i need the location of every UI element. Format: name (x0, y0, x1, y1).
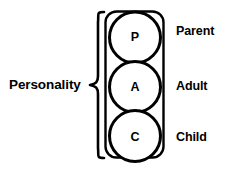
parent-state-label: Parent (176, 25, 214, 38)
personality-group-label: Personality (9, 78, 81, 92)
child-circle-initial: C (124, 131, 146, 144)
adult-circle-initial: A (124, 81, 146, 94)
parent-circle-initial: P (124, 31, 146, 44)
adult-state-label: Adult (176, 80, 207, 93)
child-state-label: Child (176, 131, 207, 144)
curly-brace-left-icon (90, 12, 104, 158)
personality-ego-state-diagram: P A C Personality Parent Adult Child (0, 0, 228, 169)
